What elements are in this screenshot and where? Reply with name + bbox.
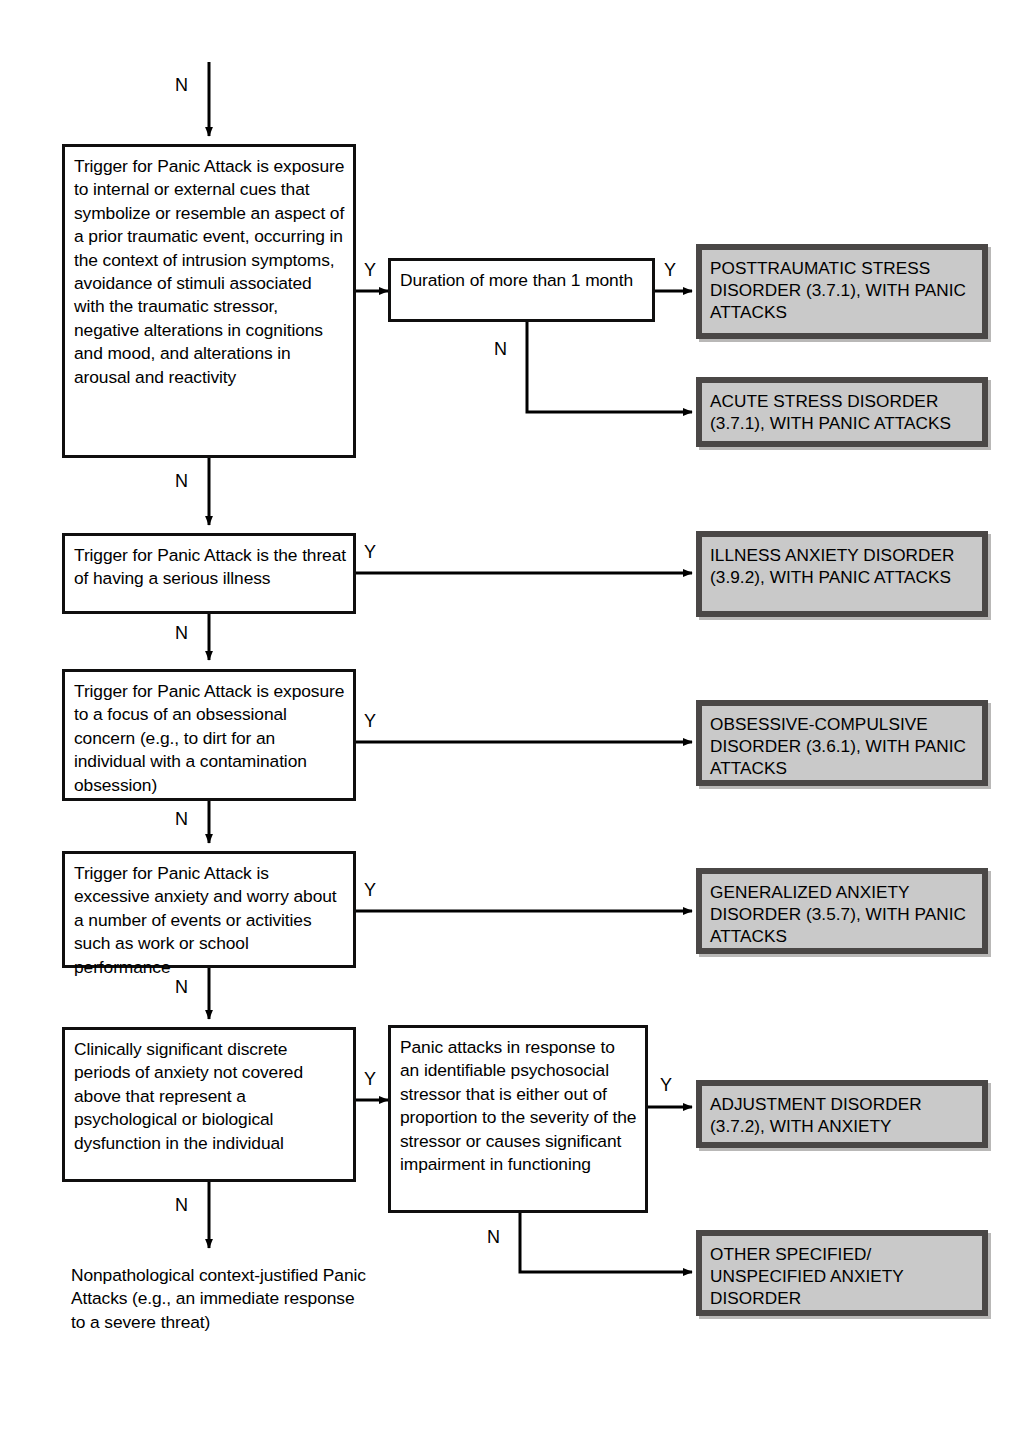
flowchart-page: N Y N Y N Y N Y N Y N Y N Y N Trigger fo… xyxy=(0,0,1036,1438)
edge-label-obsession-y: Y xyxy=(364,712,376,730)
terminal-text: Nonpathological context-justified Panic … xyxy=(71,1265,366,1332)
outcome-box-other-specified[interactable]: OTHER SPECIFIED/ UNSPECIFIED ANXIETY DIS… xyxy=(696,1230,988,1316)
criterion-text: Trigger for Panic Attack is exposure to … xyxy=(74,156,344,387)
edge-label-entry-n: N xyxy=(175,76,188,94)
outcome-box-gad[interactable]: GENERALIZED ANXIETY DISORDER (3.5.7), WI… xyxy=(696,868,988,954)
outcome-text: OTHER SPECIFIED/ UNSPECIFIED ANXIETY DIS… xyxy=(710,1244,904,1308)
criterion-text: Clinically significant discrete periods … xyxy=(74,1039,303,1153)
criterion-box-duration[interactable]: Duration of more than 1 month xyxy=(388,258,655,322)
outcome-box-ocd[interactable]: OBSESSIVE-COMPULSIVE DISORDER (3.6.1), W… xyxy=(696,700,988,786)
edge-label-ptsd-n: N xyxy=(175,472,188,490)
outcome-text: ACUTE STRESS DISORDER (3.7.1), WITH PANI… xyxy=(710,391,951,433)
outcome-box-ptsd[interactable]: POSTTRAUMATIC STRESS DISORDER (3.7.1), W… xyxy=(696,244,988,339)
edge-label-illness-y: Y xyxy=(364,543,376,561)
edge-label-duration-n: N xyxy=(494,340,507,358)
edge-label-duration-y: Y xyxy=(664,261,676,279)
edge-label-worry-n: N xyxy=(175,978,188,996)
criterion-text: Trigger for Panic Attack is exposure to … xyxy=(74,681,344,795)
outcome-text: ADJUSTMENT DISORDER (3.7.2), WITH ANXIET… xyxy=(710,1094,922,1136)
edge-label-stressor-y: Y xyxy=(660,1076,672,1094)
terminal-nonpathological: Nonpathological context-justified Panic … xyxy=(71,1264,371,1334)
outcome-text: GENERALIZED ANXIETY DISORDER (3.5.7), WI… xyxy=(710,882,966,946)
criterion-text: Panic attacks in response to an identifi… xyxy=(400,1037,636,1174)
edge-label-illness-n: N xyxy=(175,624,188,642)
outcome-text: POSTTRAUMATIC STRESS DISORDER (3.7.1), W… xyxy=(710,258,966,322)
edge-label-stressor-n: N xyxy=(487,1228,500,1246)
outcome-text: ILLNESS ANXIETY DISORDER (3.9.2), WITH P… xyxy=(710,545,954,587)
outcome-box-illness-anxiety[interactable]: ILLNESS ANXIETY DISORDER (3.9.2), WITH P… xyxy=(696,531,988,617)
criterion-box-worry[interactable]: Trigger for Panic Attack is excessive an… xyxy=(62,851,356,968)
criterion-box-obsession[interactable]: Trigger for Panic Attack is exposure to … xyxy=(62,669,356,801)
edge-label-clinical-n: N xyxy=(175,1196,188,1214)
outcome-box-acute-stress[interactable]: ACUTE STRESS DISORDER (3.7.1), WITH PANI… xyxy=(696,377,988,447)
criterion-text: Duration of more than 1 month xyxy=(400,270,633,290)
edge-label-obsession-n: N xyxy=(175,810,188,828)
outcome-box-adjustment[interactable]: ADJUSTMENT DISORDER (3.7.2), WITH ANXIET… xyxy=(696,1080,988,1148)
edge-label-clinical-y: Y xyxy=(364,1070,376,1088)
criterion-box-illness[interactable]: Trigger for Panic Attack is the threat o… xyxy=(62,533,356,614)
criterion-box-stressor[interactable]: Panic attacks in response to an identifi… xyxy=(388,1025,648,1213)
edge-label-ptsd-y: Y xyxy=(364,261,376,279)
criterion-text: Trigger for Panic Attack is the threat o… xyxy=(74,545,346,588)
edge-label-worry-y: Y xyxy=(364,881,376,899)
outcome-text: OBSESSIVE-COMPULSIVE DISORDER (3.6.1), W… xyxy=(710,714,966,778)
criterion-text: Trigger for Panic Attack is excessive an… xyxy=(74,863,337,977)
criterion-box-clinical[interactable]: Clinically significant discrete periods … xyxy=(62,1027,356,1182)
criterion-box-ptsd[interactable]: Trigger for Panic Attack is exposure to … xyxy=(62,144,356,458)
